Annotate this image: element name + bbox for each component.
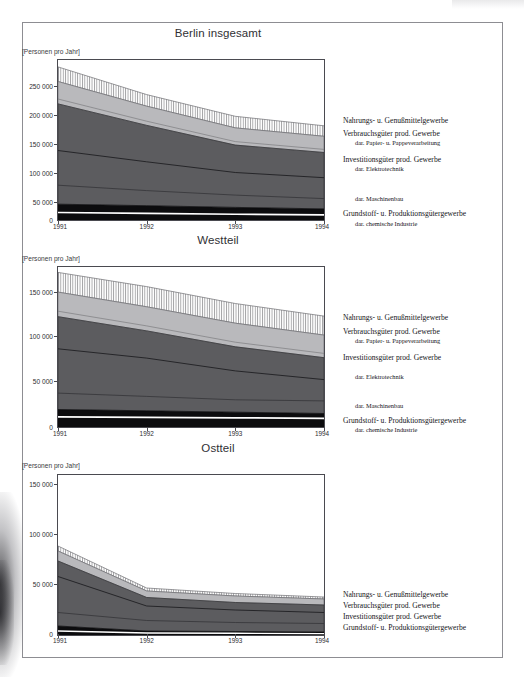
- legend-item-grundstoff: Grundstoff- u. Produktionsgütergewerbe: [343, 210, 466, 218]
- ytick-label: 150 000: [23, 140, 53, 147]
- xtick-label: 1994: [315, 223, 329, 230]
- xtick-label: 1992: [140, 430, 154, 437]
- plot-area-berlin: [57, 59, 325, 221]
- legend-item-verbrauchsgueter: Verbrauchsgüter prod. Gewerbe: [343, 328, 440, 336]
- legend-item-verbrauchsgueter: Verbrauchsgüter prod. Gewerbe: [343, 602, 440, 610]
- chart-westteil: Westteil [Personen pro Jahr]: [23, 231, 502, 443]
- legend-item-nahrungs: Nahrungs- u. Genußmittelgewerbe: [343, 314, 448, 322]
- axis-unit-berlin: [Personen pro Jahr]: [22, 48, 80, 55]
- axis-unit-westteil: [Personen pro Jahr]: [22, 255, 80, 262]
- ytick-label: 50 000: [23, 378, 53, 385]
- ytick-label: 200 000: [23, 111, 53, 118]
- ytick-label: 0: [23, 424, 53, 431]
- area-chart-svg-berlin: [58, 60, 324, 220]
- ytick-label: 50 000: [23, 198, 53, 205]
- xtick-label: 1994: [315, 637, 329, 644]
- legend-item-maschinenbau: dar. Maschinenbau: [355, 196, 403, 202]
- ytick-mark: [54, 381, 58, 382]
- chart-title-westteil: Westteil: [103, 234, 333, 246]
- chart-title-berlin: Berlin insgesamt: [103, 27, 333, 39]
- xtick-label: 1993: [228, 637, 242, 644]
- legend-item-chemie: dar. chemische Industrie: [355, 427, 417, 433]
- ytick-label: 0: [23, 631, 53, 638]
- plot-area-westteil: [57, 266, 325, 428]
- xtick-label: 1993: [228, 430, 242, 437]
- xtick-label: 1993: [228, 223, 242, 230]
- ytick-mark: [54, 534, 58, 535]
- ytick-label: 100 000: [23, 169, 53, 176]
- ytick-label: 150 000: [23, 481, 53, 488]
- ytick-mark: [54, 584, 58, 585]
- area-chart-svg-westteil: [58, 267, 324, 427]
- chart-ostteil: Ostteil [Personen pro Jahr]: [23, 439, 502, 653]
- ytick-mark: [54, 86, 58, 87]
- xtick-label: 1991: [53, 637, 67, 644]
- chart-berlin-insgesamt: Berlin insgesamt [Personen pro Jahr]: [23, 23, 502, 235]
- legend-item-investitionsgueter: Investitionsgüter prod. Gewerbe: [343, 156, 441, 164]
- ytick-label: 50 000: [23, 581, 53, 588]
- page-frame: Berlin insgesamt [Personen pro Jahr]: [22, 22, 503, 658]
- legend-item-elektrotechnik: dar. Elektrotechnik: [355, 374, 404, 380]
- ytick-mark: [54, 173, 58, 174]
- ytick-mark: [54, 115, 58, 116]
- ytick-mark: [54, 336, 58, 337]
- chart-title-ostteil: Ostteil: [103, 442, 333, 454]
- legend-item-papier: dar. Papier- u. Pappeverarbeitung: [355, 140, 440, 146]
- ytick-mark: [54, 484, 58, 485]
- xtick-label: 1994: [315, 430, 329, 437]
- xtick-label: 1992: [140, 223, 154, 230]
- legend-item-nahrungs: Nahrungs- u. Genußmittelgewerbe: [343, 591, 448, 599]
- ytick-mark: [54, 144, 58, 145]
- scan-artifact-left-core: [0, 560, 14, 665]
- legend-item-grundstoff: Grundstoff- u. Produktionsgütergewerbe: [343, 624, 466, 632]
- ytick-label: 250 000: [23, 82, 53, 89]
- legend-item-grundstoff: Grundstoff- u. Produktionsgütergewerbe: [343, 417, 466, 425]
- xtick-label: 1992: [140, 637, 154, 644]
- legend-item-papier: dar. Papier- u. Pappeverarbeitung: [355, 338, 440, 344]
- xtick-label: 1991: [53, 430, 67, 437]
- scan-artifact-top: [452, 0, 524, 9]
- legend-item-maschinenbau: dar. Maschinenbau: [355, 403, 403, 409]
- legend-item-verbrauchsgueter: Verbrauchsgüter prod. Gewerbe: [343, 130, 440, 138]
- area-chart-svg-ostteil: [58, 475, 324, 635]
- legend-item-investitionsgueter: Investitionsgüter prod. Gewerbe: [343, 613, 441, 621]
- legend-item-investitionsgueter: Investitionsgüter prod. Gewerbe: [343, 354, 441, 362]
- legend-item-nahrungs: Nahrungs- u. Genußmittelgewerbe: [343, 117, 448, 125]
- legend-item-chemie: dar. chemische Industrie: [355, 221, 417, 227]
- legend-item-elektrotechnik: dar. Elektrotechnik: [355, 166, 404, 172]
- xtick-label: 1991: [53, 223, 67, 230]
- ytick-mark: [54, 202, 58, 203]
- ytick-mark: [54, 292, 58, 293]
- plot-area-ostteil: [57, 474, 325, 636]
- ytick-label: 100 000: [23, 333, 53, 340]
- ytick-label: 150 000: [23, 288, 53, 295]
- ytick-label: 0: [23, 217, 53, 224]
- axis-unit-ostteil: [Personen pro Jahr]: [22, 462, 80, 469]
- ytick-label: 100 000: [23, 531, 53, 538]
